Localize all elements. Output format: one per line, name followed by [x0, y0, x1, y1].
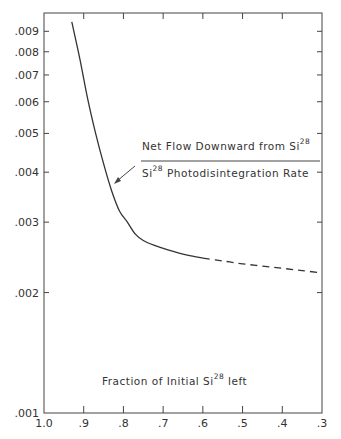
y-tick-label: .004 [15, 166, 40, 179]
y-axis-ticks: .001.002.003.004.005.006.007.008.009 [15, 25, 323, 420]
y-tick-label: .003 [15, 216, 40, 229]
x-axis-label: Fraction of Initial Si28 left [102, 372, 247, 387]
arrow-icon [114, 166, 135, 184]
x-tick-label: .6 [198, 417, 209, 430]
annotation-numerator: Net Flow Downward from Si28 [142, 137, 310, 152]
plot-frame [44, 13, 322, 413]
x-tick-label: .3 [317, 417, 328, 430]
ratio-annotation: Net Flow Downward from Si28 Si28 Photodi… [114, 137, 320, 184]
y-tick-label: .002 [15, 287, 40, 300]
x-tick-label: .4 [277, 417, 288, 430]
y-tick-label: .005 [15, 127, 40, 140]
x-tick-label: .5 [237, 417, 248, 430]
chart: 1.0.9.8.7.6.5.4.3 .001.002.003.004.005.0… [0, 0, 341, 439]
y-tick-label: .001 [15, 407, 40, 420]
extrapolated-curve [203, 258, 322, 273]
y-tick-label: .008 [15, 46, 40, 59]
annotation-denominator: Si28 Photodisintegration Rate [142, 164, 309, 179]
y-tick-label: .009 [15, 25, 40, 38]
x-tick-label: .7 [158, 417, 169, 430]
y-tick-label: .007 [15, 69, 40, 82]
y-tick-label: .006 [15, 96, 40, 109]
x-tick-label: .9 [78, 417, 89, 430]
x-tick-label: .8 [118, 417, 129, 430]
x-axis-ticks: 1.0.9.8.7.6.5.4.3 [35, 13, 327, 430]
